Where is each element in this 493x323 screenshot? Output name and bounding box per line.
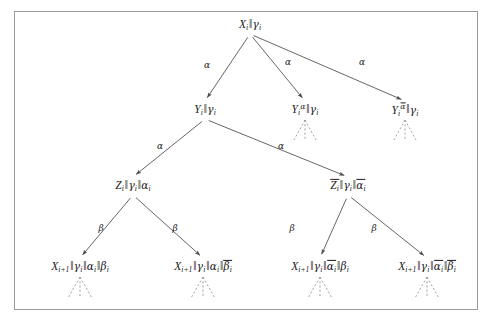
elision-leaf4-branch-0 (415, 277, 427, 298)
edge-root-to-y-plain (207, 37, 248, 97)
tree-node-leaf-aabar-bb: Xi+1‖γi‖αi‖βi (291, 260, 349, 274)
elision-leaf2-branch-2 (203, 277, 215, 298)
elision-leaf1-branch-2 (80, 277, 92, 298)
elision-y-alpha-bar-branch-0 (394, 120, 405, 140)
tree-node-z-plain: Zi‖γi‖αi (115, 180, 150, 193)
edge-label-root-right: α (359, 58, 365, 67)
edge-z-to-leaf1 (83, 198, 131, 255)
edge-label-z-left: β (98, 224, 103, 233)
tree-edges-layer (0, 0, 493, 323)
edge-root-to-y-alpha-bar (254, 36, 402, 100)
elision-leaf2-branch-0 (191, 277, 203, 298)
edge-label-root-mid: α (285, 58, 291, 67)
elided-subtree-edges-group (68, 120, 439, 298)
elision-leaf3-branch-0 (308, 277, 320, 298)
elision-y-alpha-branch-0 (294, 120, 305, 140)
edge-label-z-right: β (172, 224, 177, 233)
edge-label-zbar-left: β (289, 224, 294, 233)
elision-y-alpha-bar-branch-2 (405, 120, 416, 140)
elision-leaf1-branch-0 (68, 277, 80, 298)
tree-node-leaf-aa-bbbar: Xi+1‖γi‖αi‖βi (174, 260, 232, 274)
tree-node-y-plain: Yi‖γi (194, 104, 216, 117)
elision-leaf3-branch-2 (320, 277, 332, 298)
edge-y-to-z-plain (136, 122, 202, 175)
tree-node-leaf-aa-bb: Xi+1‖γi‖αi‖βi (51, 261, 109, 274)
tree-node-z-bar: Zi‖γi‖αi (330, 179, 365, 193)
edge-label-y-right: α (278, 142, 284, 151)
edge-y-to-z-bar (209, 121, 345, 176)
edge-label-zbar-right: β (371, 224, 376, 233)
tree-node-y-alpha: Yiα‖γi (292, 103, 319, 117)
elision-y-alpha-branch-2 (305, 120, 316, 140)
edge-label-root-left: α (204, 61, 210, 70)
diagram-canvas: Xi‖γiYi‖γiYiα‖γiYiα‖γiZi‖γi‖αiZi‖γi‖αiXi… (0, 0, 493, 323)
edge-zbar-to-leaf3 (322, 199, 347, 255)
tree-node-root: Xi‖γi (239, 19, 261, 32)
tree-node-leaf-aabar-bbbar: Xi+1‖γi‖αi‖βi (398, 260, 456, 274)
edge-zbar-to-leaf4 (351, 197, 424, 255)
elision-leaf4-branch-2 (427, 277, 439, 298)
tree-node-y-alpha-bar: Yiα‖γi (392, 102, 419, 117)
edge-label-y-left: α (157, 142, 163, 151)
edge-z-to-leaf2 (136, 198, 200, 256)
